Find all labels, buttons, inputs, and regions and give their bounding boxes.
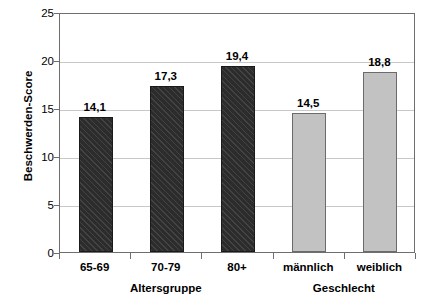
- bar-70-79: [150, 86, 184, 252]
- x-tick-mark: [273, 253, 274, 259]
- x-tick-mark: [344, 253, 345, 259]
- y-tick-label: 25: [14, 7, 54, 19]
- x-tick-mark: [415, 253, 416, 259]
- bar-value-label: 14,1: [83, 101, 105, 113]
- y-tick-label: 5: [14, 199, 54, 211]
- x-axis-group-label: Altersgruppe: [130, 282, 202, 294]
- bar-value-label: 17,3: [155, 70, 177, 82]
- x-axis-label: 70-79: [151, 261, 180, 273]
- bar-80-: [221, 66, 255, 252]
- y-tick-label: 20: [14, 55, 54, 67]
- x-axis-label: weiblich: [357, 261, 402, 273]
- bar-65-69: [79, 117, 113, 252]
- x-axis-label: 80+: [227, 261, 247, 273]
- y-tick-label: 0: [14, 247, 54, 259]
- x-axis-label: 65-69: [80, 261, 109, 273]
- y-tick-label: 15: [14, 103, 54, 115]
- x-axis-group-label: Geschlecht: [313, 282, 375, 294]
- bar-value-label: 14,5: [297, 97, 319, 109]
- x-axis-label: männlich: [283, 261, 333, 273]
- y-tick-label: 10: [14, 151, 54, 163]
- x-tick-mark: [59, 253, 60, 259]
- gridline: [60, 62, 414, 63]
- bar-chart: Beschwerden-Score 0510152025 14,117,319,…: [0, 0, 424, 307]
- bar-m-nnlich: [292, 113, 326, 252]
- x-tick-mark: [130, 253, 131, 259]
- bar-weiblich: [363, 72, 397, 252]
- bar-value-label: 18,8: [368, 56, 390, 68]
- x-tick-mark: [201, 253, 202, 259]
- bar-value-label: 19,4: [226, 50, 248, 62]
